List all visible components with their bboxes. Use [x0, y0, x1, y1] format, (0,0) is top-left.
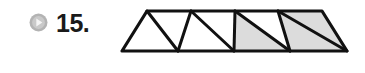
trapezoid-triangles-figure — [112, 3, 357, 61]
item-number-label: 15. — [56, 8, 89, 38]
play-circle-icon[interactable] — [29, 13, 48, 32]
divider-segment-4 — [234, 11, 235, 51]
problem-row: 15. — [0, 0, 365, 73]
